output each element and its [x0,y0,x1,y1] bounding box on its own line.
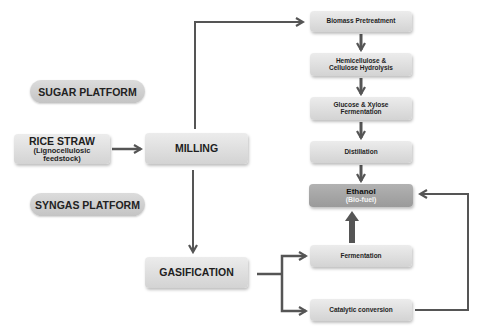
hydrolysis-box: Hemicellulose & Cellulose Hydrolysis [310,53,412,76]
sugar-platform-label: SUGAR PLATFORM [30,80,145,103]
arrow-to-catalytic [282,274,306,311]
gasification-box: GASIFICATION [145,257,248,288]
catalytic-conversion-box: Catalytic conversion [310,299,412,321]
rice-straw-box: RICE STRAW (Lignocellulosic feedstock) [14,134,110,164]
syngas-platform-label: SYNGAS PLATFORM [30,193,145,216]
biomass-pretreatment-box: Biomass Pretreatment [310,11,412,32]
arrow-to-fermentation [282,256,306,274]
milling-box: MILLING [145,133,248,164]
glucose-xylose-fermentation-box: Glucose & Xylose Fermentation [310,97,412,120]
ethanol-biofuel-box: Ethanol (Bio-fuel) [309,184,413,207]
arrow-milling-to-pretreatment [195,22,303,129]
distillation-box: Distillation [310,141,412,163]
arrow-fermentation-to-ethanol [345,211,359,221]
syngas-fermentation-box: Fermentation [310,245,412,267]
arrow-catalytic-to-ethanol [415,194,468,310]
